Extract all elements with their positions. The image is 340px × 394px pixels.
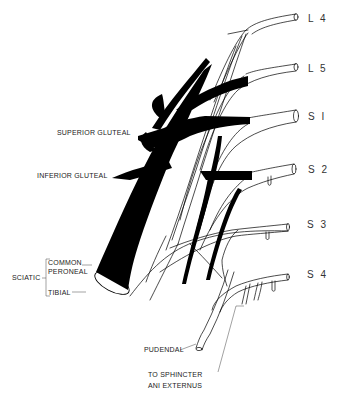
superior-gluteal-nerve: [138, 116, 250, 148]
label-superior-gluteal: SUPERIOR GLUTEAL: [57, 129, 131, 137]
root-label-s2: S 2: [308, 164, 329, 176]
label-inferior-gluteal: INFERIOR GLUTEAL: [37, 172, 108, 180]
root-s4-nerve: [212, 274, 289, 312]
label-sciatic: SCIATIC: [12, 274, 41, 282]
sphincter-leader: [218, 306, 244, 372]
l5-posterior-branch: [176, 76, 248, 110]
label-tibial: TIBIAL: [48, 289, 71, 297]
root-label-l5: L 5: [308, 63, 328, 75]
sacral-plexus-diagram: [0, 0, 340, 394]
root-label-s4: S 4: [307, 269, 328, 281]
s2-posterior-branch: [200, 171, 252, 180]
s2-descending-black-branch: [182, 178, 212, 284]
label-pudendal: PUDENDAL: [144, 346, 184, 354]
root-label-l4: L 4: [308, 13, 328, 25]
root-label-s1: S I: [308, 111, 326, 123]
root-label-s3: S 3: [307, 219, 328, 231]
tibial-outline-trunk: [130, 231, 288, 300]
label-common-peroneal-line1: COMMON: [48, 259, 82, 267]
gluteal-web-upper: [152, 94, 166, 118]
label-common-peroneal-line2: PERONEAL: [48, 268, 88, 276]
label-sphincter-line1: TO SPHINCTER: [148, 371, 202, 379]
label-sphincter-line2: ANI EXTERNUS: [148, 382, 202, 390]
